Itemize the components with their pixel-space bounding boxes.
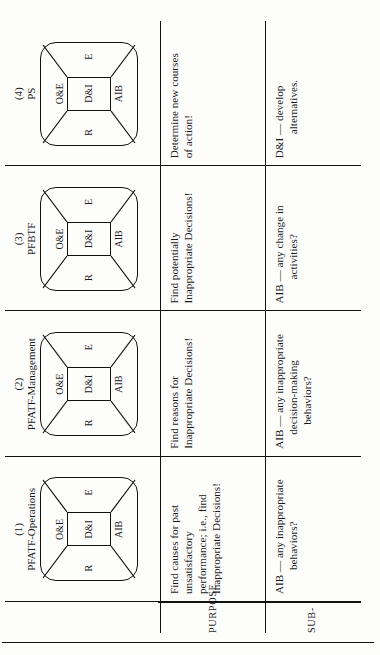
pfatf-diagram-3: D&I O&E AIB R E (40, 187, 138, 291)
subgoal-line: activities? (286, 174, 300, 303)
diagram-caption-4: (4) PS (12, 87, 37, 100)
diagram-cell-3: (3) PFBTF D&I O&E AIB R (8, 166, 160, 311)
left-margin-rule (2, 642, 374, 643)
diagram-name-4: PS (25, 87, 38, 100)
subgoal-cell-3: AIB — any change in activities? (266, 166, 358, 311)
purpose-cell-3: Find potentially Inappropriate Decisions… (161, 166, 265, 311)
pfatf-center-box-4: D&I (67, 77, 111, 111)
pfatf-label-right-3: E (84, 199, 94, 205)
pfatf-label-left-1: R (84, 565, 94, 572)
pfatf-label-right-1: E (84, 489, 94, 495)
diagram-caption-2: (2) PFATF-Management (12, 338, 37, 430)
pfatf-label-left-4: R (84, 129, 94, 136)
purpose-line: Find causes for past (167, 465, 181, 594)
purpose-line: Determine new courses (167, 29, 181, 158)
purpose-line: of action! (181, 29, 195, 158)
diagram-caption-3: (3) PFBTF (12, 223, 37, 255)
pfatf-label-top-3: O&E (55, 187, 65, 291)
subgoal-line: behaviors? (286, 465, 300, 594)
pfatf-label-center-2: D&I (84, 375, 94, 393)
diagram-number-2: (2) (12, 338, 25, 430)
diagram-name-1: PFATF-Operations (25, 488, 38, 571)
subgoal-line: D&I — develop (272, 29, 286, 158)
pfatf-label-bottom-1: AIB (114, 477, 124, 581)
subgoal-cell-1: AIB — any inappropriate behaviors? (266, 457, 358, 602)
pfatf-label-bottom-2: AIB (114, 332, 124, 436)
purpose-cell-4: Determine new courses of action! (161, 21, 265, 166)
diagram-cell-1: (1) PFATF-Operations D&I O&E AIB (8, 457, 160, 602)
purpose-line: performance; i.e., find (195, 465, 209, 594)
diagram-number-3: (3) (12, 223, 25, 255)
row-header-purpose: PURPOSE (161, 602, 265, 633)
purpose-line: Find reasons for (167, 320, 181, 449)
pfatf-center-box-3: D&I (67, 222, 111, 256)
pfatf-label-bottom-4: AIB (114, 42, 124, 146)
purpose-line: Inappropriate Decisions! (209, 465, 223, 594)
pfatf-diagram-2: D&I O&E AIB R E (40, 332, 138, 436)
subgoal-line: AIB — any inappropriate (272, 465, 286, 594)
purpose-cell-2: Find reasons for Inappropriate Decisions… (161, 312, 265, 457)
pfatf-center-box-2: D&I (67, 367, 111, 401)
scanned-page: (1) PFATF-Operations D&I O&E AIB (0, 0, 380, 655)
subgoal-line: AIB — any inappropriate (272, 320, 286, 449)
subgoal-line: AIB — any change in (272, 174, 286, 303)
pfatf-label-center-4: D&I (84, 84, 94, 102)
subgoal-cell-4: D&I — develop alternatives. (266, 21, 358, 166)
pfatf-diagram-1: D&I O&E AIB R E (40, 477, 138, 581)
subgoal-line: alternatives. (286, 29, 300, 158)
page-sheet: (1) PFATF-Operations D&I O&E AIB (0, 0, 380, 655)
diagram-number-1: (1) (12, 488, 25, 571)
diagram-number-4: (4) (12, 87, 25, 100)
diagram-cell-2: (2) PFATF-Management D&I O&E AIB (8, 312, 160, 457)
pfatf-label-top-2: O&E (55, 332, 65, 436)
subgoal-line: decision-making (286, 320, 300, 449)
diagram-cell-4: (4) PS D&I O&E AIB R (8, 21, 160, 166)
purpose-line: unsatisfactory (181, 465, 195, 594)
subgoal-line: behaviors? (300, 320, 314, 449)
pfatf-label-center-1: D&I (84, 520, 94, 538)
pfatf-label-right-2: E (84, 344, 94, 350)
purpose-line: Inappropriate Decisions! (181, 174, 195, 303)
pfatf-label-left-2: R (84, 419, 94, 426)
row-header-subgoal-label: SUB- (306, 607, 317, 633)
pfatf-label-bottom-3: AIB (114, 187, 124, 291)
pfatf-diagram-4: D&I O&E AIB R E (40, 42, 138, 146)
diagram-row-label-spacer (8, 602, 160, 633)
diagram-name-2: PFATF-Management (25, 338, 38, 430)
pfatf-comparison-table: (1) PFATF-Operations D&I O&E AIB (8, 21, 372, 633)
pfatf-label-left-3: R (84, 274, 94, 281)
pfatf-label-top-1: O&E (55, 477, 65, 581)
pfatf-label-center-3: D&I (84, 230, 94, 248)
pfatf-label-top-4: O&E (55, 42, 65, 146)
subgoal-cell-2: AIB — any inappropriate decision-making … (266, 312, 358, 457)
row-header-subgoal: SUB- (266, 602, 358, 633)
pfatf-center-box-1: D&I (67, 512, 111, 546)
purpose-line: Find potentially (167, 174, 181, 303)
purpose-line: Inappropriate Decisions! (181, 320, 195, 449)
pfatf-label-right-4: E (84, 54, 94, 60)
diagram-name-3: PFBTF (25, 223, 38, 255)
diagram-caption-1: (1) PFATF-Operations (12, 488, 37, 571)
purpose-cell-1: Find causes for past unsatisfactory perf… (161, 457, 265, 602)
